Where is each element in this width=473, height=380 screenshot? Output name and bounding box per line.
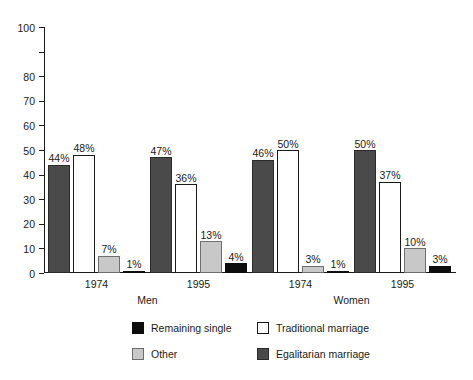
x-axis-supergroup-label-women: Women [334,295,370,306]
y-axis-tick-label: 20 [23,219,35,230]
legend-item-egalitarian-marriage: Egalitarian marriage [257,348,402,360]
bar-value-label: 4% [228,252,243,263]
bar-egalitarian-group-0: 44% [48,165,70,273]
bar-other-group-2: 3% [302,266,324,273]
y-axis-tick: 0 [39,273,44,274]
y-axis-tick-label: 80 [23,71,35,82]
x-axis-group-label-3: 1995 [391,279,414,290]
legend-swatch-icon-other [132,348,144,360]
legend-swatch-icon-egalitarian-marriage [257,348,269,360]
bar-value-label: 50% [277,139,298,150]
legend-label-remaining-single: Remaining single [151,323,232,334]
bar-single-group-0: 1% [123,271,145,273]
bar-value-label: 50% [354,139,375,150]
bar-value-label: 1% [330,259,345,270]
x-axis-supergroup-label-men: Men [137,295,157,306]
bar-traditional-group-2: 50% [277,150,299,273]
legend-label-traditional-marriage: Traditional marriage [276,323,369,334]
bar-value-label: 48% [73,143,94,154]
y-axis-tick-label: 40 [23,170,35,181]
y-axis-tick-label: 70 [23,96,35,107]
legend-swatch-icon-remaining-single [132,322,144,334]
bar-value-label: 36% [175,173,196,184]
y-axis-tick-label: 50 [23,145,35,156]
grouped-bar-chart: 01020304050607080100 44%48%7%1%47%36%13%… [0,0,473,380]
bar-other-group-3: 10% [404,248,426,273]
y-axis-tick-label: 100 [17,22,35,33]
bar-value-label: 13% [200,230,221,241]
y-axis-tick-label: 10 [23,244,35,255]
legend-item-remaining-single: Remaining single [132,322,257,334]
legend-item-traditional-marriage: Traditional marriage [257,322,402,334]
x-axis-group-label-1: 1995 [187,279,210,290]
legend-item-other: Other [132,348,257,360]
bar-value-label: 47% [150,146,171,157]
y-axis-tick-label: 0 [29,268,35,279]
y-axis-tick-label: 60 [23,121,35,132]
bar-traditional-group-1: 36% [175,184,197,273]
bar-value-label: 10% [404,237,425,248]
x-axis-group-label-0: 1974 [85,279,108,290]
bar-value-label: 3% [305,254,320,265]
legend-label-other: Other [151,349,177,360]
bar-egalitarian-group-1: 47% [150,157,172,273]
bar-value-label: 46% [252,148,273,159]
bar-single-group-2: 1% [327,271,349,273]
legend-label-egalitarian-marriage: Egalitarian marriage [276,349,370,360]
bar-other-group-0: 7% [98,256,120,273]
bar-value-label: 44% [48,153,69,164]
bar-single-group-3: 3% [429,266,451,273]
bar-traditional-group-0: 48% [73,155,95,273]
chart-legend: Remaining single Traditional marriage Ot… [132,322,402,360]
bar-value-label: 7% [101,244,116,255]
bar-value-label: 1% [126,259,141,270]
bar-egalitarian-group-2: 46% [252,160,274,273]
bar-egalitarian-group-3: 50% [354,150,376,273]
plot-area: 44%48%7%1%47%36%13%4%46%50%3%1%50%37%10%… [44,27,456,273]
bar-other-group-1: 13% [200,241,222,273]
bar-value-label: 3% [432,254,447,265]
bar-traditional-group-3: 37% [379,182,401,273]
y-axis-tick-label: 30 [23,194,35,205]
bar-value-label: 37% [379,170,400,181]
x-axis-group-label-2: 1974 [289,279,312,290]
legend-swatch-icon-traditional-marriage [257,322,269,334]
bar-single-group-1: 4% [225,263,247,273]
